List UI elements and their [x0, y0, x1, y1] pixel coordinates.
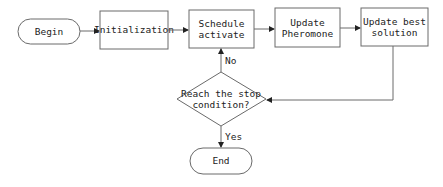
begin-label: Begin [35, 26, 64, 37]
pheromone-label-line2: Pheromone [282, 28, 334, 39]
pheromone-label-line1: Update [290, 17, 325, 28]
initialization-node: Initialization [94, 11, 174, 49]
no-label: No [225, 55, 237, 66]
schedule-label-line1: Schedule [199, 18, 245, 29]
edge-best-decision [267, 46, 393, 100]
stop-condition-decision-node: Reach the stop condition? [177, 72, 266, 126]
best-label-line1: Update best [363, 16, 426, 27]
end-label: End [212, 155, 229, 166]
schedule-label-line2: activate [199, 29, 245, 40]
decision-label-line1: Reach the stop [181, 88, 261, 99]
begin-node: Begin [18, 19, 80, 44]
decision-label-line2: condition? [192, 99, 249, 110]
best-label-line2: solution [372, 27, 418, 38]
flowchart-canvas: Begin Initialization Schedule activate U… [0, 0, 443, 187]
update-best-solution-node: Update best solution [361, 8, 428, 46]
schedule-activate-node: Schedule activate [189, 10, 254, 48]
update-pheromone-node: Update Pheromone [275, 8, 340, 47]
initialization-label: Initialization [94, 24, 174, 35]
end-node: End [190, 148, 252, 174]
yes-label: Yes [225, 131, 242, 142]
